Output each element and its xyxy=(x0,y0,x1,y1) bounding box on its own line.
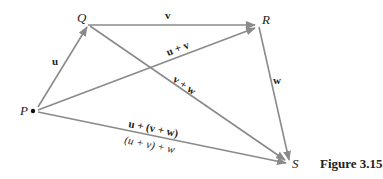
vector-u-plus-v-arrow xyxy=(38,28,255,110)
figure-caption: Figure 3.15 xyxy=(320,156,383,171)
point-p-label: P xyxy=(19,103,28,118)
point-r-label: R xyxy=(261,12,270,27)
point-p-dot xyxy=(31,109,35,113)
point-s-label: S xyxy=(292,156,299,171)
point-q-label: Q xyxy=(77,10,87,25)
vector-v-plus-w-label: v + w xyxy=(171,73,199,97)
vector-sum-arrow xyxy=(38,112,286,163)
vector-addition-diagram: P Q R S u v w u + v v + w u + (v + w) (u… xyxy=(0,0,383,179)
vector-w-label: w xyxy=(273,74,281,86)
vector-u-label: u xyxy=(52,55,58,67)
vector-v-label: v xyxy=(165,9,171,21)
vector-w-arrow xyxy=(259,27,289,160)
vector-u-plus-v-label: u + v xyxy=(164,38,191,58)
